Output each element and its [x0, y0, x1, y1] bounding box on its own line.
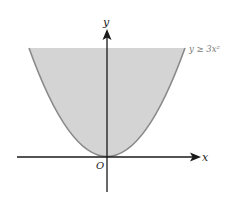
origin-label: O: [96, 160, 104, 171]
x-axis-label: x: [202, 151, 209, 164]
inequality-label: y ≥ 3x²: [188, 44, 221, 54]
inequality-diagram: y x O y ≥ 3x²: [0, 0, 239, 209]
y-axis-label: y: [102, 16, 110, 29]
